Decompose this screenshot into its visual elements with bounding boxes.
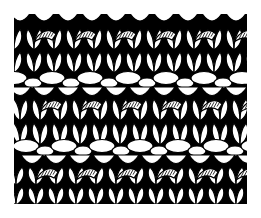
- knitting-stitch-illustration: [14, 14, 247, 204]
- stitch-pattern-graphic: [14, 14, 247, 204]
